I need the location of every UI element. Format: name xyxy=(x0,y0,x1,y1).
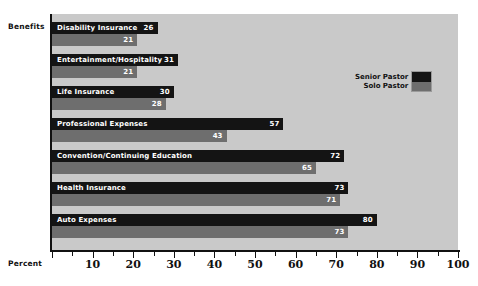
bar-category-label: Professional Expenses xyxy=(57,121,148,128)
legend-swatch xyxy=(411,71,432,92)
tick-label-40: 40 xyxy=(207,259,222,270)
tick-label-60: 60 xyxy=(288,259,303,270)
tick-label-70: 70 xyxy=(329,259,344,270)
legend-label-solo-pastor: Solo Pastor xyxy=(355,82,408,91)
bar-solo-pastor: 71 xyxy=(52,194,340,206)
bar-solo-pastor: 43 xyxy=(52,130,227,142)
tick-minor-5 xyxy=(72,252,73,256)
x-axis-title: Percent xyxy=(8,259,42,268)
tick-minor-55 xyxy=(275,252,276,256)
bar-value-label: 72 xyxy=(330,153,340,160)
tick-minor-15 xyxy=(113,252,114,256)
bars-container: Disability Insurance2621Entertainment/Ho… xyxy=(52,14,458,250)
bar-senior-pastor: Professional Expenses57 xyxy=(52,118,283,130)
bar-solo-pastor: 21 xyxy=(52,34,137,46)
bar-category-label: Health Insurance xyxy=(57,185,126,192)
tick-label-30: 30 xyxy=(166,259,181,270)
bar-value-label: 43 xyxy=(213,133,223,140)
tick-minor-25 xyxy=(154,252,155,256)
legend-swatch-senior xyxy=(412,72,431,82)
bar-value-label: 26 xyxy=(144,25,154,32)
bar-senior-pastor: Convention/Continuing Education72 xyxy=(52,150,344,162)
bar-value-label: 73 xyxy=(334,229,344,236)
tick-major-0 xyxy=(52,252,53,258)
bar-senior-pastor: Auto Expenses80 xyxy=(52,214,377,226)
bar-value-label: 73 xyxy=(334,185,344,192)
bar-senior-pastor: Entertainment/Hospitality31 xyxy=(52,54,178,66)
tick-label-50: 50 xyxy=(247,259,262,270)
bar-senior-pastor: Disability Insurance26 xyxy=(52,22,158,34)
tick-label-90: 90 xyxy=(410,259,425,270)
y-axis-title: Benefits xyxy=(8,22,45,31)
bar-value-label: 71 xyxy=(326,197,336,204)
tick-minor-65 xyxy=(316,252,317,256)
bar-category-label: Entertainment/Hospitality xyxy=(57,57,162,64)
tick-minor-35 xyxy=(194,252,195,256)
legend-labels: Senior PastorSolo Pastor xyxy=(355,73,408,91)
tick-minor-95 xyxy=(438,252,439,256)
bar-category-label: Auto Expenses xyxy=(57,217,116,224)
legend-swatch-solo xyxy=(412,82,431,92)
bar-value-label: 31 xyxy=(164,57,174,64)
bar-chart: Benefits Percent Disability Insurance262… xyxy=(0,0,478,286)
tick-label-80: 80 xyxy=(369,259,384,270)
bar-senior-pastor: Life Insurance30 xyxy=(52,86,174,98)
bar-category-label: Disability Insurance xyxy=(57,25,137,32)
tick-minor-75 xyxy=(357,252,358,256)
bar-value-label: 21 xyxy=(123,37,133,44)
bar-value-label: 28 xyxy=(152,101,162,108)
bar-value-label: 21 xyxy=(123,69,133,76)
bar-solo-pastor: 21 xyxy=(52,66,137,78)
bar-category-label: Life Insurance xyxy=(57,89,114,96)
tick-label-10: 10 xyxy=(85,259,100,270)
bar-value-label: 80 xyxy=(363,217,373,224)
bar-value-label: 65 xyxy=(302,165,312,172)
legend: Senior PastorSolo Pastor xyxy=(355,71,432,92)
legend-label-senior-pastor: Senior Pastor xyxy=(355,73,408,82)
tick-label-100: 100 xyxy=(447,259,470,270)
tick-minor-85 xyxy=(397,252,398,256)
bar-solo-pastor: 73 xyxy=(52,226,348,238)
bar-category-label: Convention/Continuing Education xyxy=(57,153,192,160)
bar-solo-pastor: 28 xyxy=(52,98,166,110)
tick-label-20: 20 xyxy=(126,259,141,270)
y-axis-line xyxy=(50,14,52,252)
plot-area: Disability Insurance2621Entertainment/Ho… xyxy=(52,14,458,250)
tick-minor-45 xyxy=(235,252,236,256)
bar-value-label: 57 xyxy=(269,121,279,128)
bar-solo-pastor: 65 xyxy=(52,162,316,174)
bar-value-label: 30 xyxy=(160,89,170,96)
bar-senior-pastor: Health Insurance73 xyxy=(52,182,348,194)
